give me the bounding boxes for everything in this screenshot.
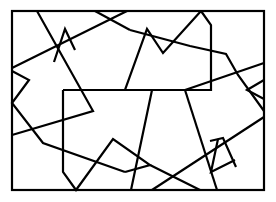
- polyline-p7: [12, 71, 125, 172]
- polyline-p4: [95, 11, 130, 30]
- polyline-p6: [125, 11, 211, 90]
- outer-frame: [12, 11, 264, 190]
- line-art-diagram: [0, 0, 276, 202]
- polyline-p13: [152, 117, 264, 190]
- polyline-p8: [63, 90, 152, 190]
- polyline-p14: [247, 80, 264, 99]
- polyline-p9: [63, 90, 150, 190]
- figure-canvas: [0, 0, 276, 202]
- polyline-group: [12, 11, 264, 190]
- polyline-p1: [12, 11, 93, 135]
